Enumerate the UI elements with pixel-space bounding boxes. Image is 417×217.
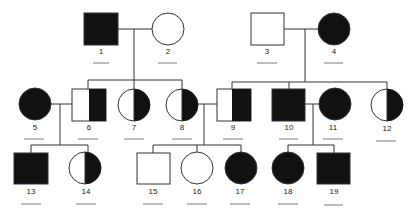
- male-affected-symbol: [14, 153, 48, 184]
- male-affected-symbol: [317, 153, 350, 184]
- individual-8: 8: [166, 89, 198, 139]
- individual-5: 5: [19, 88, 51, 139]
- individual-label: 19: [330, 187, 339, 196]
- individual-label: 15: [149, 187, 158, 196]
- individual-label: 1: [99, 47, 104, 56]
- male-affected-symbol: [272, 89, 305, 121]
- individual-3: 3: [251, 13, 284, 63]
- individual-label: 12: [383, 124, 392, 133]
- individual-6: 6: [72, 89, 106, 139]
- individual-16: 16: [181, 152, 213, 204]
- individual-1: 1: [84, 13, 118, 63]
- individual-14: 14: [69, 152, 101, 204]
- individual-11: 11: [319, 88, 351, 139]
- individual-12: 12: [371, 89, 403, 141]
- individual-2: 2: [152, 13, 184, 63]
- female-affected-symbol: [318, 13, 350, 45]
- individual-17: 17: [225, 152, 257, 204]
- individual-10: 10: [272, 89, 305, 139]
- individual-19: 19: [317, 153, 350, 205]
- individual-label: 8: [180, 123, 185, 132]
- male-unaffected-symbol: [137, 153, 170, 184]
- individual-label: 9: [231, 123, 236, 132]
- individual-label: 3: [265, 47, 270, 56]
- male-affected-symbol: [84, 13, 118, 45]
- individual-9: 9: [217, 89, 251, 139]
- individual-label: 18: [284, 187, 293, 196]
- female-affected-symbol: [225, 152, 257, 184]
- individual-13: 13: [14, 153, 48, 204]
- individual-label: 4: [332, 47, 337, 56]
- individual-label: 2: [166, 47, 171, 56]
- female-unaffected-symbol: [181, 152, 213, 184]
- individual-label: 10: [285, 123, 294, 132]
- individual-label: 7: [132, 123, 137, 132]
- pedigree-chart: 1 2 3 4 5 6 7 8: [0, 0, 417, 217]
- individual-label: 13: [27, 187, 36, 196]
- individual-18: 18: [272, 152, 304, 204]
- individual-label: 5: [33, 123, 38, 132]
- individual-4: 4: [318, 13, 350, 63]
- individual-label: 17: [236, 187, 245, 196]
- female-unaffected-symbol: [152, 13, 184, 45]
- individual-15: 15: [137, 153, 170, 204]
- individual-label: 16: [193, 187, 202, 196]
- individual-label: 14: [82, 187, 91, 196]
- female-affected-symbol: [19, 88, 51, 120]
- individual-7: 7: [118, 89, 150, 139]
- female-affected-symbol: [319, 88, 351, 120]
- male-unaffected-symbol: [251, 13, 284, 45]
- individual-label: 6: [87, 123, 92, 132]
- female-affected-symbol: [272, 152, 304, 184]
- individual-label: 11: [329, 123, 338, 132]
